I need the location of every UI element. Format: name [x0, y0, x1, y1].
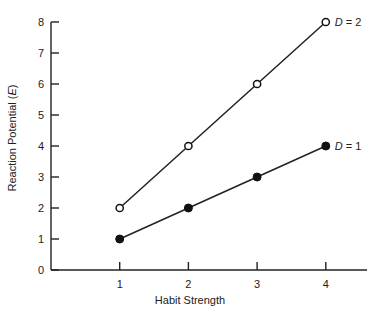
filled-circle-marker — [116, 235, 124, 243]
x-axis-title: Habit Strength — [155, 294, 225, 306]
series-line — [120, 22, 326, 208]
filled-circle-marker — [322, 142, 330, 150]
series-line — [120, 146, 326, 239]
y-tick-label: 2 — [38, 202, 44, 214]
line-chart: 012345678 1234 D = 2D = 1 Habit Strength… — [0, 0, 384, 312]
y-axis-title: Reaction Potential (E) — [6, 84, 18, 191]
x-axis: 1234 — [51, 262, 367, 290]
y-tick-label: 7 — [38, 47, 44, 59]
y-tick-label: 5 — [38, 109, 44, 121]
x-tick-label: 3 — [254, 278, 260, 290]
y-tick-label: 3 — [38, 171, 44, 183]
series-label: D = 2 — [335, 16, 362, 28]
y-axis: 012345678 — [38, 16, 59, 276]
y-tick-label: 8 — [38, 16, 44, 28]
x-tick-label: 2 — [185, 278, 191, 290]
y-tick-label: 0 — [38, 264, 44, 276]
open-circle-marker — [254, 80, 261, 87]
series-layer: D = 2D = 1 — [116, 16, 362, 243]
filled-circle-marker — [184, 204, 192, 212]
y-tick-label: 4 — [38, 140, 44, 152]
open-circle-marker — [185, 142, 192, 149]
y-tick-label: 1 — [38, 233, 44, 245]
open-circle-marker — [322, 18, 329, 25]
x-tick-label: 4 — [323, 278, 329, 290]
series-d2: D = 2 — [116, 16, 361, 212]
y-tick-label: 6 — [38, 78, 44, 90]
open-circle-marker — [116, 204, 123, 211]
series-label: D = 1 — [335, 140, 362, 152]
filled-circle-marker — [253, 173, 261, 181]
series-d1: D = 1 — [116, 140, 362, 243]
x-tick-label: 1 — [117, 278, 123, 290]
